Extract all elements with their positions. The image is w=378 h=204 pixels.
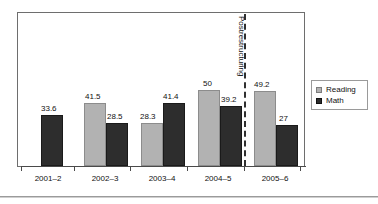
- bar-reading-2002-3: [84, 103, 106, 166]
- bar-math-2003-4: [163, 103, 185, 166]
- x-axis-tick: [74, 167, 75, 171]
- legend-item-math: Math: [316, 95, 363, 106]
- bar-label-reading-2003-4: 28.3: [140, 112, 156, 121]
- x-label-2003-4: 2003–4: [138, 174, 186, 184]
- bar-math-2001-2: [41, 115, 63, 166]
- bar-label-math-2003-4: 41.4: [163, 92, 179, 101]
- postrestructuring-label: Postrestructuring: [237, 16, 246, 76]
- legend-item-reading: Reading: [316, 84, 363, 95]
- bar-reading-2003-4: [141, 123, 163, 166]
- bar-label-reading-2005-6: 49.2: [254, 80, 270, 89]
- bar-math-2002-3: [106, 123, 128, 166]
- x-axis-tick: [187, 167, 188, 171]
- reading-swatch-icon: [316, 87, 322, 93]
- bar-label-math-2004-5: 39.2: [221, 95, 237, 104]
- bar-chart-figure: 33.6 41.5 28.5 28.3 41.4 50 39.2 49.2 27…: [0, 0, 378, 204]
- x-label-2005-6: 2005–6: [251, 174, 299, 184]
- bar-label-math-2002-3: 28.5: [107, 112, 123, 121]
- legend-label-reading: Reading: [326, 85, 356, 94]
- bar-label-math-2001-2: 33.6: [41, 104, 57, 113]
- x-axis-tick: [300, 167, 301, 171]
- chart-legend: Reading Math: [311, 80, 368, 110]
- x-label-2004-5: 2004–5: [194, 174, 242, 184]
- bar-reading-2005-6: [254, 91, 276, 166]
- x-axis-tick: [244, 167, 245, 171]
- bar-label-math-2005-6: 27: [279, 114, 288, 123]
- x-label-2001-2: 2001–2: [24, 174, 72, 184]
- page-divider-rule-shadow: [0, 197, 378, 198]
- bar-math-2004-5: [220, 106, 242, 166]
- bar-math-2005-6: [276, 125, 298, 166]
- x-axis-line: [21, 166, 306, 167]
- bar-label-reading-2002-3: 41.5: [85, 92, 101, 101]
- x-axis-tick: [21, 167, 22, 171]
- bar-label-reading-2004-5: 50: [203, 79, 212, 88]
- legend-label-math: Math: [326, 96, 344, 105]
- bar-reading-2004-5: [198, 90, 220, 166]
- x-axis-tick: [130, 167, 131, 171]
- x-label-2002-3: 2002–3: [81, 174, 129, 184]
- math-swatch-icon: [316, 98, 322, 104]
